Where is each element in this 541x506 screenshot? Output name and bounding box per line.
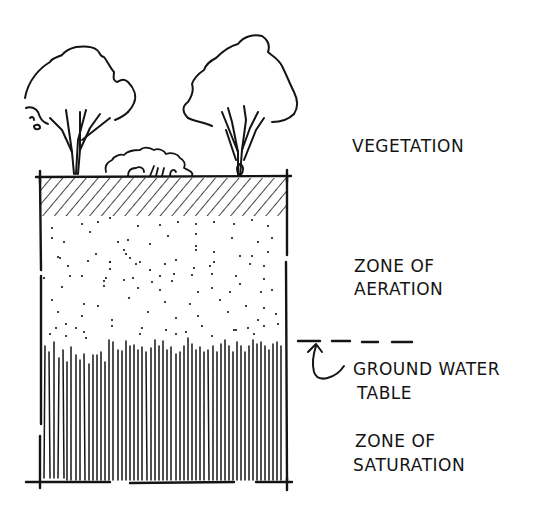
label-ground-water-table-line2: TABLE <box>357 380 412 406</box>
aeration-zone-dots <box>43 217 279 339</box>
label-zone-of-aeration-line2: AERATION <box>354 276 443 302</box>
label-zone-of-saturation-line1: ZONE OF <box>355 428 436 454</box>
shrub-icon <box>105 148 192 176</box>
tree-right-icon <box>184 35 298 176</box>
label-ground-water-table-line1: GROUND WATER <box>353 356 500 382</box>
topsoil-layer <box>41 178 287 216</box>
soil-zones-diagram <box>0 0 541 506</box>
label-zone-of-saturation-line2: SATURATION <box>353 452 465 478</box>
saturation-zone-lines <box>44 338 281 480</box>
water-table-indicator <box>298 341 412 342</box>
arrow-icon <box>308 344 344 379</box>
label-vegetation: VEGETATION <box>352 133 464 159</box>
